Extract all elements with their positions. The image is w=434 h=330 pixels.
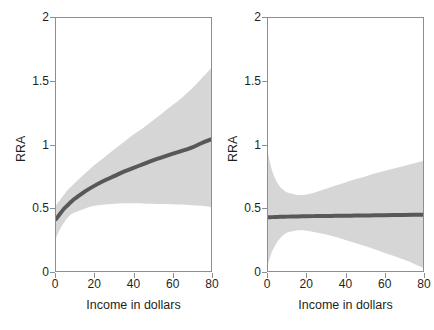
y-tick-mark — [50, 208, 55, 209]
x-tick-mark — [424, 273, 425, 278]
chart-panel-real: Real RRA Income in dollars 00.511.520204… — [0, 0, 217, 330]
y-tick-label: 1.5 — [25, 74, 49, 88]
y-tick-label: 1 — [25, 138, 49, 152]
y-tick-label: 1.5 — [237, 74, 261, 88]
y-tick-label: 1 — [237, 138, 261, 152]
x-tick-label: 40 — [127, 277, 140, 291]
chart-panel-hypothetical: Hypothetical RRA Income in dollars 00.51… — [217, 0, 434, 330]
confidence-band — [268, 153, 423, 267]
x-tick-mark — [267, 273, 268, 278]
x-tick-label: 80 — [417, 277, 430, 291]
y-tick-label: 0.5 — [237, 201, 261, 215]
plot-area — [55, 17, 212, 272]
x-tick-label: 0 — [264, 277, 271, 291]
y-tick-mark — [50, 145, 55, 146]
x-axis-label: Income in dollars — [267, 298, 424, 312]
y-tick-mark — [262, 145, 267, 146]
x-tick-mark — [346, 273, 347, 278]
y-tick-mark — [262, 81, 267, 82]
x-tick-mark — [55, 273, 56, 278]
x-axis-label: Income in dollars — [55, 298, 212, 312]
fit-line — [268, 215, 423, 218]
x-tick-label: 20 — [88, 277, 101, 291]
x-tick-mark — [306, 273, 307, 278]
series-svg — [268, 18, 423, 271]
y-tick-label: 0 — [25, 265, 49, 279]
y-tick-label: 2 — [237, 10, 261, 24]
x-tick-mark — [385, 273, 386, 278]
y-tick-label: 0.5 — [25, 201, 49, 215]
x-tick-label: 60 — [378, 277, 391, 291]
figure: Real RRA Income in dollars 00.511.520204… — [0, 0, 434, 330]
x-tick-mark — [173, 273, 174, 278]
x-tick-label: 0 — [52, 277, 59, 291]
y-tick-label: 2 — [25, 10, 49, 24]
y-tick-mark — [50, 17, 55, 18]
y-tick-mark — [50, 81, 55, 82]
x-tick-label: 40 — [339, 277, 352, 291]
x-tick-mark — [134, 273, 135, 278]
y-tick-label: 0 — [237, 265, 261, 279]
x-tick-label: 60 — [166, 277, 179, 291]
confidence-band — [56, 69, 211, 239]
y-tick-mark — [262, 208, 267, 209]
x-tick-mark — [212, 273, 213, 278]
series-svg — [56, 18, 211, 271]
y-tick-mark — [262, 17, 267, 18]
plot-area — [267, 17, 424, 272]
x-tick-label: 20 — [300, 277, 313, 291]
x-tick-mark — [94, 273, 95, 278]
